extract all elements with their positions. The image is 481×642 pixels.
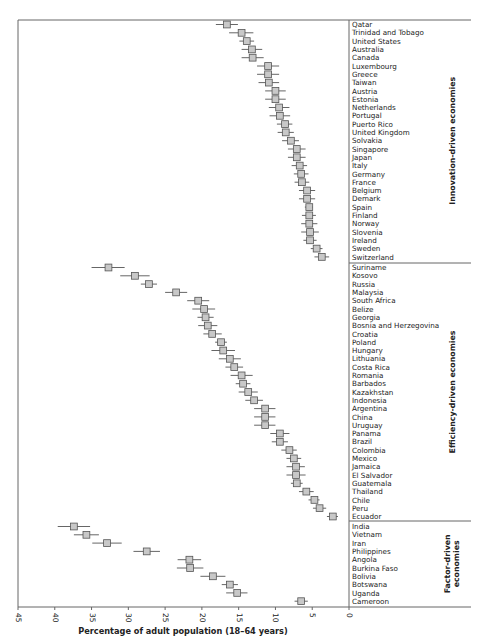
data-point [313, 505, 326, 512]
data-point [286, 472, 305, 479]
data-point [177, 565, 203, 572]
data-point [242, 46, 263, 53]
group-label: Innovation-driven economies [448, 76, 457, 204]
data-point [141, 281, 157, 288]
country-label: Switzerland [352, 253, 394, 262]
data-point [327, 513, 338, 520]
square-marker-icon [104, 540, 111, 547]
data-point [281, 447, 296, 454]
x-axis-title: Percentage of adult population (18–64 ye… [78, 626, 288, 636]
square-marker-icon [195, 297, 202, 304]
square-marker-icon [276, 430, 283, 437]
data-point [215, 339, 227, 346]
square-marker-icon [296, 162, 303, 169]
data-point [303, 237, 316, 244]
data-point [257, 71, 279, 78]
data-point [203, 331, 221, 338]
data-point [58, 523, 90, 530]
data-point [198, 322, 217, 329]
data-point [192, 306, 215, 313]
data-point [295, 598, 308, 605]
x-tick-label: 40 [51, 613, 60, 623]
square-marker-icon [209, 331, 216, 338]
square-marker-icon [313, 245, 320, 252]
square-marker-icon [249, 46, 256, 53]
square-marker-icon [251, 397, 258, 404]
data-point [288, 146, 306, 153]
x-tick-label: 30 [124, 613, 133, 623]
x-tick-label: 10 [271, 613, 280, 623]
data-point [286, 455, 301, 462]
square-marker-icon [226, 581, 233, 588]
x-tick-label: 0 [345, 613, 354, 618]
square-marker-icon [220, 347, 227, 354]
country-label: Cameroon [352, 597, 389, 606]
square-marker-icon [187, 565, 194, 572]
square-marker-icon [143, 548, 150, 555]
square-marker-icon [262, 414, 269, 421]
data-point [254, 414, 275, 421]
data-point [294, 171, 309, 178]
data-point [272, 438, 288, 445]
data-point [265, 88, 286, 95]
data-point [314, 254, 329, 261]
data-point [187, 297, 209, 304]
data-point [259, 79, 280, 86]
square-marker-icon [146, 281, 153, 288]
square-marker-icon [299, 179, 306, 186]
data-point [282, 137, 299, 144]
plot-frame [18, 20, 471, 607]
square-marker-icon [304, 187, 311, 194]
data-point [254, 422, 275, 429]
square-marker-icon [286, 447, 293, 454]
square-marker-icon [226, 355, 233, 362]
x-tick-label: 25 [161, 613, 170, 623]
square-marker-icon [210, 573, 217, 580]
data-point [225, 364, 243, 371]
square-marker-icon [265, 71, 272, 78]
data-point [299, 187, 315, 194]
data-point [211, 347, 235, 354]
square-marker-icon [262, 422, 269, 429]
square-marker-icon [276, 104, 283, 111]
data-point [309, 497, 320, 504]
data-point [239, 38, 254, 45]
square-marker-icon [293, 463, 300, 470]
square-marker-icon [173, 289, 180, 296]
data-point [165, 289, 187, 296]
square-marker-icon [105, 264, 112, 271]
square-marker-icon [293, 472, 300, 479]
data-point [299, 488, 314, 495]
x-tick-label: 45 [14, 613, 23, 623]
square-marker-icon [282, 121, 289, 128]
square-marker-icon [223, 21, 230, 28]
square-marker-icon [311, 497, 318, 504]
square-marker-icon [318, 254, 325, 261]
square-marker-icon [201, 306, 208, 313]
square-marker-icon [306, 212, 313, 219]
square-marker-icon [307, 229, 314, 236]
data-point [302, 212, 316, 219]
square-marker-icon [272, 96, 279, 103]
square-marker-icon [298, 171, 305, 178]
square-marker-icon [307, 237, 314, 244]
data-point [299, 195, 315, 202]
square-marker-icon [287, 137, 294, 144]
square-marker-icon [276, 438, 283, 445]
country-label: Ecuador [352, 512, 381, 521]
square-marker-icon [306, 220, 313, 227]
square-marker-icon [265, 63, 272, 70]
square-marker-icon [186, 556, 193, 563]
square-marker-icon [243, 38, 250, 45]
square-marker-icon [71, 523, 78, 530]
square-marker-icon [329, 513, 336, 520]
data-point [277, 121, 292, 128]
square-marker-icon [293, 146, 300, 153]
data-point [286, 463, 304, 470]
data-point [301, 229, 319, 236]
data-point [197, 314, 213, 321]
chart: QatarTrinidad and TobagoUnited StatesAus… [0, 0, 481, 642]
data-point [311, 245, 323, 252]
square-marker-icon [249, 54, 256, 61]
data-point [305, 204, 313, 211]
